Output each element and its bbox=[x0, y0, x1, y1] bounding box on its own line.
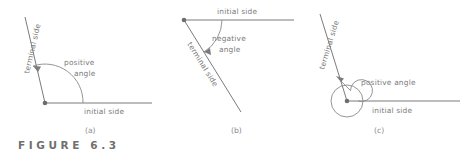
figure-caption: FIGURE 6.3 bbox=[18, 139, 120, 151]
panel-a-diagram: terminal side positive angle initial sid… bbox=[0, 0, 160, 140]
panel-a-letter: (a) bbox=[85, 126, 96, 135]
panel-a-angle-label-line2: angle bbox=[74, 69, 96, 78]
panel-b-terminal-side-label: terminal side bbox=[185, 40, 220, 88]
panel-c-letter: (c) bbox=[374, 126, 384, 135]
panel-b-angle-label-line1: negative bbox=[212, 34, 246, 43]
panel-a-angle-label-line1: positive bbox=[64, 58, 95, 67]
panel-b-letter: (b) bbox=[231, 126, 242, 135]
panel-c-initial-side-label: initial side bbox=[372, 106, 412, 115]
panel-c-vertex-point bbox=[345, 99, 350, 104]
panel-a-initial-side-label: initial side bbox=[84, 107, 124, 116]
panel-b-angle-label-line2: angle bbox=[219, 45, 241, 54]
panel-a-arc-arrowhead bbox=[33, 66, 41, 72]
panel-c-terminal-side-label: terminal side bbox=[317, 19, 341, 71]
panel-c-diagram: terminal side positive angle initial sid… bbox=[300, 0, 473, 140]
panel-b-vertex-point bbox=[182, 18, 187, 23]
panel-c-angle-label-line1: positive angle bbox=[361, 78, 416, 87]
panel-b-diagram: initial side negative angle terminal sid… bbox=[155, 0, 315, 140]
figure-6-3: terminal side positive angle initial sid… bbox=[0, 0, 473, 157]
panel-b-initial-side-label: initial side bbox=[217, 7, 257, 16]
panel-a-vertex-point bbox=[43, 101, 48, 106]
